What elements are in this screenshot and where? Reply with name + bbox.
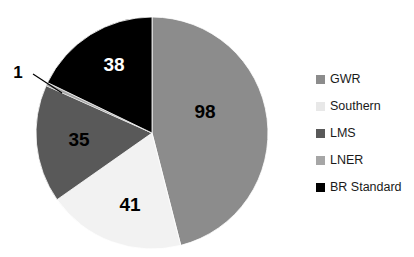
legend-item[interactable]: LMS [316,120,412,147]
legend-item[interactable]: BR Standard [316,174,412,201]
legend-item-label: Southern [330,93,381,120]
legend-item-label: LMS [330,120,356,147]
legend-swatch-icon [316,129,325,138]
legend-item[interactable]: Southern [316,93,412,120]
legend-item-label: LNER [330,147,363,174]
legend-item[interactable]: GWR [316,66,412,93]
pie-chart-figure: 984135138 GWRSouthernLMSLNERBR Standard [0,0,414,257]
legend-swatch-icon [316,75,325,84]
legend-item-label: GWR [330,66,361,93]
legend-item-label: BR Standard [330,174,402,201]
chart-legend: GWRSouthernLMSLNERBR Standard [316,66,412,201]
legend-swatch-icon [316,156,325,165]
legend-swatch-icon [316,183,325,192]
pie-slice-value-label: 35 [68,129,90,150]
pie-slice-value-label: 1 [13,63,22,82]
pie-slice-value-label: 38 [103,54,124,75]
legend-item[interactable]: LNER [316,147,412,174]
pie-slice-value-label: 98 [194,101,215,122]
legend-swatch-icon [316,102,325,111]
pie-slice-value-label: 41 [119,194,141,215]
